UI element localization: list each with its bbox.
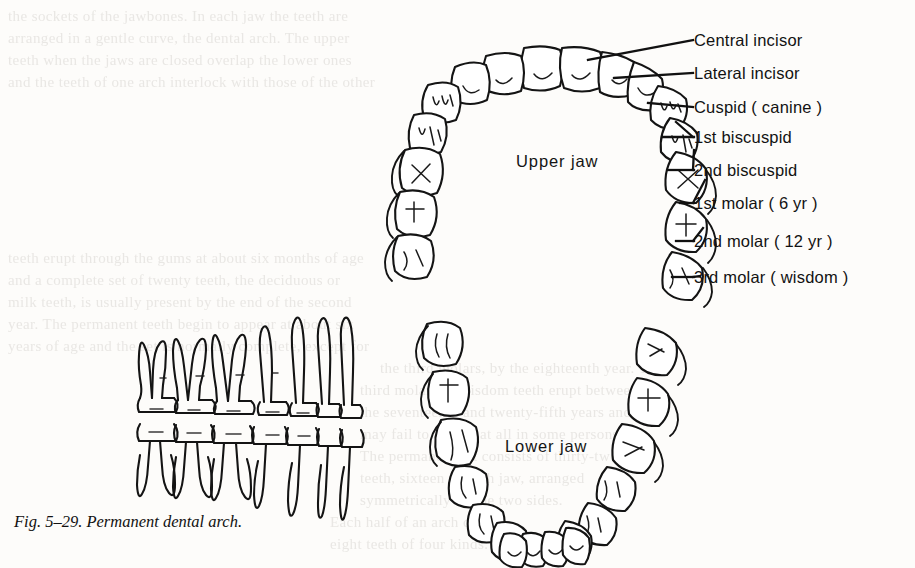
callout-label: 2nd molar ( 12 yr )	[694, 232, 833, 251]
callout-label: 1st biscuspid	[694, 128, 792, 147]
figure-page: the sockets of the jawbones. In each jaw…	[0, 0, 915, 568]
callout-label: 1st molar ( 6 yr )	[694, 194, 818, 213]
callout-label: Cuspid ( canine )	[694, 98, 822, 117]
callout-label: Lateral incisor	[694, 64, 800, 83]
lateral-tooth-row	[137, 318, 364, 520]
lower-jaw-label: Lower jaw	[505, 437, 587, 456]
figure-caption: Fig. 5–29. Permanent dental arch.	[14, 512, 242, 532]
callout-label: 3rd molar ( wisdom )	[694, 268, 848, 287]
upper-jaw-arch	[385, 46, 716, 307]
callout-label: 2nd biscuspid	[694, 161, 798, 180]
upper-jaw-label: Upper jaw	[516, 152, 598, 171]
callout-label: Central incisor	[694, 31, 802, 50]
